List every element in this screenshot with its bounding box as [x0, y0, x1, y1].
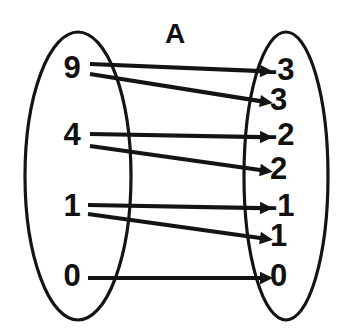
diagram-title: A	[165, 18, 185, 49]
domain-element-1: 4	[63, 117, 81, 152]
mapping-arrow-line	[90, 64, 262, 71]
domain-element-0: 9	[63, 50, 80, 85]
codomain-element-5: 1	[270, 218, 287, 253]
domain-element-3: 0	[63, 258, 80, 293]
codomain-element-3: 2	[270, 151, 287, 186]
mapping-diagram-root: 9410 -33-22-110 A	[0, 0, 353, 334]
domain-element-2: 1	[63, 188, 80, 223]
codomain-element-1: 3	[270, 82, 287, 117]
codomain-element-6: 0	[270, 258, 287, 293]
codomain-element-2: -2	[267, 117, 295, 152]
mapping-diagram-canvas: 9410 -33-22-110 A	[0, 0, 353, 334]
